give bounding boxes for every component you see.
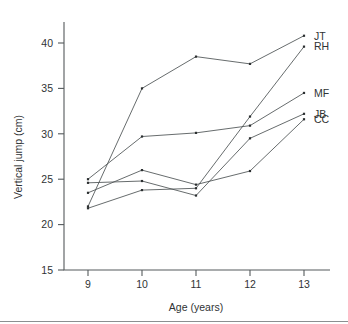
chart-canvas: 152025303540 910111213 JTRHMFJBCC Age (y… xyxy=(0,0,348,324)
data-point-cc xyxy=(303,118,305,120)
data-point-rh xyxy=(195,187,197,189)
data-point-mf xyxy=(249,125,251,127)
y-axis-title: Vertical jump (cm) xyxy=(12,115,24,199)
series-line-jt xyxy=(88,36,304,207)
y-tick-label: 40 xyxy=(41,37,53,49)
data-point-cc xyxy=(249,170,251,172)
data-point-cc xyxy=(141,169,143,171)
data-point-rh xyxy=(141,189,143,191)
data-point-mf xyxy=(195,132,197,134)
y-tick-label: 20 xyxy=(41,218,53,230)
data-point-jb xyxy=(141,180,143,182)
y-axis-ticks: 152025303540 xyxy=(41,37,64,276)
x-tick-label: 10 xyxy=(136,278,148,290)
data-point-rh xyxy=(303,46,305,48)
data-point-rh xyxy=(249,115,251,117)
series-label-mf: MF xyxy=(314,87,329,99)
data-point-rh xyxy=(87,207,89,209)
y-tick-label: 35 xyxy=(41,82,53,94)
data-point-jt xyxy=(195,56,197,58)
series-line-jb xyxy=(88,114,304,196)
data-series-group xyxy=(87,35,305,210)
x-tick-label: 9 xyxy=(85,278,91,290)
data-point-jb xyxy=(195,194,197,196)
data-point-jt xyxy=(303,35,305,37)
y-tick-label: 30 xyxy=(41,128,53,140)
vertical-jump-line-chart: 152025303540 910111213 JTRHMFJBCC Age (y… xyxy=(0,0,348,324)
series-label-cc: CC xyxy=(314,113,330,125)
data-point-jt xyxy=(249,63,251,65)
data-point-mf xyxy=(303,92,305,94)
y-tick-label: 25 xyxy=(41,173,53,185)
chart-axes xyxy=(64,22,330,270)
data-point-cc xyxy=(195,184,197,186)
data-point-jb xyxy=(303,113,305,115)
x-axis-title: Age (years) xyxy=(169,301,223,313)
x-tick-label: 12 xyxy=(244,278,256,290)
footer-divider xyxy=(0,321,348,322)
data-point-mf xyxy=(141,135,143,137)
x-tick-label: 11 xyxy=(191,278,202,290)
data-point-cc xyxy=(87,192,89,194)
x-tick-label: 13 xyxy=(298,278,310,290)
x-axis-ticks: 910111213 xyxy=(85,270,310,290)
series-label-group: JTRHMFJBCC xyxy=(314,30,330,126)
data-point-mf xyxy=(87,178,89,180)
data-point-jb xyxy=(87,182,89,184)
series-label-rh: RH xyxy=(314,40,329,52)
y-tick-label: 15 xyxy=(41,264,53,276)
data-point-jt xyxy=(141,87,143,89)
data-point-jb xyxy=(249,137,251,139)
